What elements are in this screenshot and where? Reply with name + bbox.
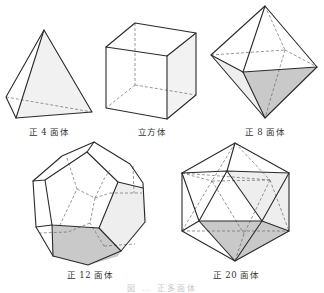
label-octahedron: 正 8 面体 (245, 125, 286, 137)
figure-caption: 図 … 正多面体 (127, 282, 196, 293)
tetrahedron-shape (6, 30, 92, 118)
dodecahedron-shape (33, 142, 147, 265)
label-cube: 立方体 (138, 125, 167, 137)
label-tetrahedron: 正 4 面体 (29, 125, 70, 137)
label-icosahedron: 正 20 面体 (213, 268, 260, 280)
cube-shape (106, 23, 196, 119)
icosahedron-shape (182, 143, 289, 261)
label-dodecahedron: 正 12 面体 (67, 268, 114, 280)
octahedron-shape (211, 6, 317, 118)
